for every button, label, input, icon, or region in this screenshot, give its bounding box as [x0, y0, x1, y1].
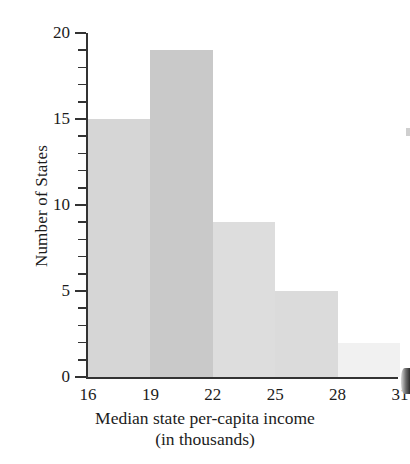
y-tick-minor — [78, 256, 86, 258]
figure-caption: Median state per-capita income (in thous… — [0, 408, 410, 449]
x-tick-label: 19 — [130, 385, 170, 405]
y-tick-minor — [78, 153, 86, 155]
y-tick-major — [75, 376, 86, 378]
scan-edge-artifact — [401, 368, 410, 394]
y-tick-major — [75, 32, 86, 34]
caption-line-2: (in thousands) — [0, 429, 410, 450]
y-tick-major — [75, 118, 86, 120]
x-tick-label: 25 — [255, 385, 295, 405]
y-tick-minor — [78, 49, 86, 51]
y-tick-minor — [78, 187, 86, 189]
x-tick-label: 22 — [193, 385, 233, 405]
y-tick-minor — [78, 359, 86, 361]
y-tick-label: 0 — [36, 368, 70, 385]
x-tick-label: 16 — [68, 385, 108, 405]
x-tick-label: 28 — [318, 385, 358, 405]
y-tick-label: 5 — [36, 282, 70, 299]
histogram-bar — [338, 343, 400, 377]
y-tick-minor — [78, 101, 86, 103]
y-tick-label: 10 — [36, 196, 70, 213]
y-tick-minor — [78, 325, 86, 327]
x-axis-line — [86, 377, 398, 379]
scan-edge-artifact-secondary — [406, 128, 410, 136]
y-tick-minor — [78, 170, 86, 172]
y-tick-label: 15 — [36, 110, 70, 127]
histogram-bar — [88, 119, 150, 377]
y-tick-minor — [78, 84, 86, 86]
y-tick-minor — [78, 67, 86, 69]
y-tick-minor — [78, 342, 86, 344]
histogram-bar — [150, 50, 212, 377]
histogram-figure: Number of States 05101520 161922252831 M… — [0, 0, 410, 464]
y-tick-minor — [78, 239, 86, 241]
y-tick-minor — [78, 221, 86, 223]
plot-area: 05101520 161922252831 — [86, 33, 398, 377]
y-tick-minor — [78, 135, 86, 137]
y-tick-minor — [78, 307, 86, 309]
y-tick-minor — [78, 273, 86, 275]
y-tick-major — [75, 204, 86, 206]
histogram-bar — [213, 222, 275, 377]
y-tick-major — [75, 290, 86, 292]
caption-line-1: Median state per-capita income — [95, 408, 315, 428]
y-tick-label: 20 — [36, 24, 70, 41]
histogram-bar — [275, 291, 337, 377]
